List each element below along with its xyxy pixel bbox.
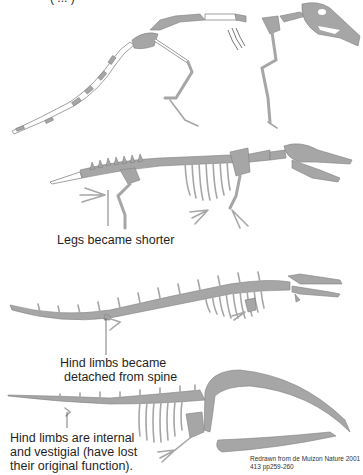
skeleton-illustrations: .b { fill: #a6a6a6; stroke: #808080; str…: [0, 0, 363, 475]
basilosaurus-skeleton: [10, 272, 342, 330]
ambulocetus-skeleton: [50, 144, 352, 228]
label-vestigial-1: Hind limbs are internal: [10, 431, 134, 445]
label-vestigial-3: their original function).: [10, 459, 133, 473]
label-legs-shorter: Legs became shorter: [57, 233, 174, 247]
label-hind-limbs-detached-1: Hind limbs became: [60, 356, 166, 370]
credit-line-1: Redrawn from de Muizon Nature 2001: [250, 455, 360, 463]
pakicetus-skeleton: [12, 3, 360, 134]
credit-line-2: 413 pp259-260: [250, 463, 294, 471]
label-hind-limbs-detached-2: detached from spine: [64, 370, 177, 384]
label-vestigial-2: and vestigial (have lost: [10, 445, 137, 459]
